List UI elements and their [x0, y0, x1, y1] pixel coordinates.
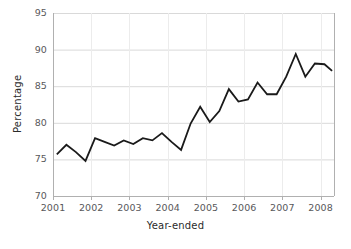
chart-figure: 707580859095 200120022003200420052006200… — [0, 0, 351, 249]
x-tick-label-2005: 2005 — [186, 202, 226, 213]
y-tick-label-95: 95 — [21, 7, 47, 18]
x-tick-label-2007: 2007 — [262, 202, 302, 213]
x-tick-label-2001: 2001 — [33, 202, 73, 213]
y-tick-label-90: 90 — [21, 44, 47, 55]
x-tick-label-2002: 2002 — [71, 202, 111, 213]
x-tick-label-2008: 2008 — [301, 202, 341, 213]
x-tick-label-2003: 2003 — [109, 202, 149, 213]
gridline-group — [53, 14, 334, 197]
y-tick-label-75: 75 — [21, 153, 47, 164]
y-axis-title: Percentage — [12, 74, 23, 132]
x-tick-label-2006: 2006 — [224, 202, 264, 213]
x-axis-title: Year-ended — [0, 220, 351, 231]
x-tick-label-2004: 2004 — [148, 202, 188, 213]
y-tick-label-85: 85 — [21, 80, 47, 91]
x-tickmark-group — [54, 13, 322, 200]
axis-line-group — [54, 13, 335, 196]
y-tick-label-80: 80 — [21, 117, 47, 128]
y-tick-label-70: 70 — [21, 190, 47, 201]
data-series-line — [57, 54, 332, 161]
